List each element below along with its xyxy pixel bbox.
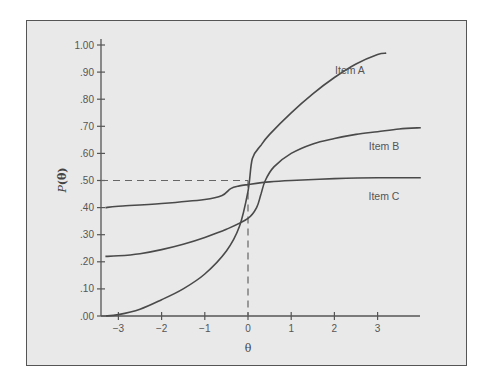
label-item-b: Item B xyxy=(369,140,399,152)
label-item-c: Item C xyxy=(369,190,400,202)
y-axis-title: P(θ) xyxy=(56,167,69,193)
reference-lines xyxy=(101,181,248,317)
y-tick-label: .40 xyxy=(80,202,94,213)
label-item-a: Item A xyxy=(335,64,365,76)
y-tick-label: .90 xyxy=(80,67,94,78)
x-tick-label: 0 xyxy=(245,323,251,334)
x-tick-label: 1 xyxy=(288,323,294,334)
x-tick-label: −2 xyxy=(156,323,168,334)
y-tick-label: 1.00 xyxy=(75,40,95,51)
x-axis-title: θ xyxy=(245,342,252,355)
y-tick-label: .70 xyxy=(80,121,94,132)
y-tick-label: .30 xyxy=(80,229,94,240)
y-tick-label: .80 xyxy=(80,94,94,105)
y-tick-label: .00 xyxy=(80,311,94,322)
x-tick-label: −1 xyxy=(199,323,211,334)
series-group: Item AItem BItem C xyxy=(105,53,420,316)
y-tick-label: .50 xyxy=(80,175,94,186)
chart-canvas: .00.10.20.30.40.50.60.70.80.901.00 −3−2−… xyxy=(0,0,494,385)
y-tick-label: .10 xyxy=(80,283,94,294)
x-axis: −3−2−10123 xyxy=(101,312,420,334)
x-tick-label: 3 xyxy=(375,323,381,334)
y-axis: .00.10.20.30.40.50.60.70.80.901.00 xyxy=(75,39,105,322)
x-tick-label: −3 xyxy=(113,323,125,334)
y-tick-label: .60 xyxy=(80,148,94,159)
x-tick-label: 2 xyxy=(332,323,338,334)
y-tick-label: .20 xyxy=(80,256,94,267)
